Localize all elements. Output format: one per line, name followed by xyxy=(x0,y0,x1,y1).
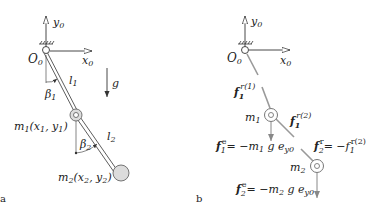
panel-b: y0 x0 O0 f1r(1) m1 f1r(2) f1e= −m1 g ey0… xyxy=(196,15,366,204)
mass-2-icon xyxy=(113,165,129,181)
y0-axis-label: y0 xyxy=(52,16,64,30)
mass-2-joint-icon-b xyxy=(315,164,320,169)
mass-1-joint-icon-b xyxy=(269,113,274,118)
angle-beta2-label: β2 xyxy=(79,138,91,152)
x0-axis-label-b: x0 xyxy=(280,54,291,68)
ground-support-icon-b xyxy=(238,41,253,44)
force-f2-r-equation: f2r= −f1r(2) xyxy=(313,137,366,155)
mass-2-label-b: m2 xyxy=(290,161,306,175)
mass-1-label-b: m1 xyxy=(245,111,261,125)
pivot-joint-icon-b xyxy=(242,47,249,54)
gravity-label: g xyxy=(112,77,119,90)
force-f1-r1-lower-segment xyxy=(262,87,270,108)
double-pendulum-figure: y0 x0 O0 l1 β1 g xyxy=(0,0,379,214)
force-f1-r1-segment xyxy=(247,54,258,75)
force-f2-e-equation: f2e= −m2 g ey0 xyxy=(235,180,314,198)
diagram-canvas: y0 x0 O0 l1 β1 g xyxy=(0,0,379,214)
link-2-label: l2 xyxy=(107,130,116,144)
force-f1-r2-label: f1r(2) xyxy=(289,111,311,130)
x0-axis-label: x0 xyxy=(82,54,93,68)
panel-a-label: a xyxy=(0,193,6,204)
y0-axis-label-b: y0 xyxy=(250,15,262,29)
angle-beta1-label: β1 xyxy=(44,88,56,102)
force-f1-e-equation: f1e= −m1 g ey0 xyxy=(215,137,294,155)
force-f2-r-segment xyxy=(301,149,314,162)
panel-a: y0 x0 O0 l1 β1 g xyxy=(0,16,129,204)
origin-label: O0 xyxy=(28,52,43,67)
force-f1-r1-label: f1r(1) xyxy=(233,82,255,101)
pivot-joint-icon xyxy=(43,47,50,54)
beta1-arc xyxy=(46,79,57,82)
mass-1-joint-icon xyxy=(74,113,79,118)
mass-2-label: m2(x2, y2) xyxy=(58,171,112,185)
link-1-label: l1 xyxy=(69,74,78,88)
panel-b-label: b xyxy=(196,193,202,204)
origin-label-b: O0 xyxy=(227,51,242,66)
mass-1-label: m1(x1, y1) xyxy=(14,120,68,134)
ground-support-icon xyxy=(39,41,54,44)
